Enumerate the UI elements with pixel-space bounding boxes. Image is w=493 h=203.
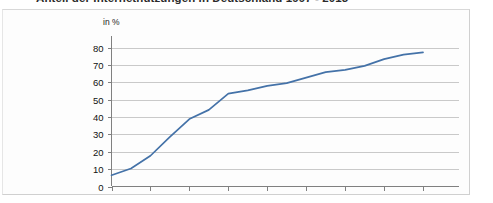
y-tick-label: 80 [93,43,104,54]
y-tick-label: 40 [93,112,104,123]
plot-area: in % 01020304050607080 19971999200120032… [3,10,471,196]
y-tick-label: 70 [93,60,104,71]
x-tick-label: 2005 [257,193,279,197]
x-tick-label: 2003 [218,193,239,197]
y-tick-label: 60 [93,77,104,88]
y-axis-ticks: 01020304050607080 [93,43,112,193]
x-axis-ticks: 199719992001200320052007200920112013 [102,187,434,197]
gridlines [112,49,460,170]
y-tick-label: 10 [93,164,104,175]
page-title: Anteil der Internetnutzungen in Deutschl… [36,0,348,4]
y-tick-label: 20 [93,147,104,158]
y-tick-label: 0 [98,182,103,193]
chart-card: in % 01020304050607080 19971999200120032… [2,9,470,195]
data-series-line [112,52,424,175]
y-tick-label: 30 [93,129,104,140]
x-tick-label: 2007 [296,193,317,197]
chart-title-strip: Anteil der Internetnutzungen in Deutschl… [0,0,493,9]
x-tick-label: 2013 [413,193,434,197]
y-axis-unit-label: in % [103,17,120,27]
y-tick-label: 50 [93,95,104,106]
x-tick-label: 1997 [102,193,123,197]
line-chart-svg: in % 01020304050607080 19971999200120032… [3,10,471,196]
x-tick-label: 2009 [335,193,356,197]
x-tick-label: 1999 [140,193,161,197]
x-tick-label: 2001 [179,193,201,197]
x-tick-label: 2011 [374,193,395,197]
